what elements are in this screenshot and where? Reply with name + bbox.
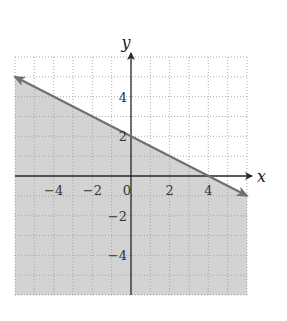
x-tick-label: −4 bbox=[44, 183, 63, 198]
x-tick-label: 4 bbox=[204, 183, 212, 198]
x-tick-label: 2 bbox=[166, 183, 174, 198]
y-tick-label: 4 bbox=[119, 90, 127, 105]
x-axis-label: x bbox=[257, 167, 266, 186]
y-tick-label: −2 bbox=[108, 209, 127, 224]
y-axis-label: y bbox=[120, 33, 131, 52]
y-tick-label: 2 bbox=[119, 129, 127, 144]
y-tick-label: −4 bbox=[108, 248, 127, 263]
x-tick-label: 0 bbox=[123, 183, 131, 198]
inequality-graph: −4−202442−2−4xy bbox=[0, 0, 287, 321]
x-tick-label: −2 bbox=[83, 183, 102, 198]
